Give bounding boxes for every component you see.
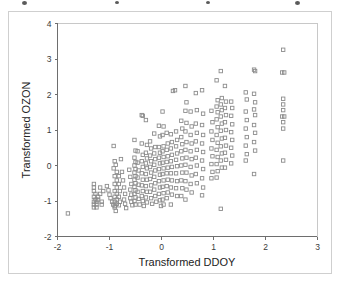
data-point xyxy=(170,153,173,156)
data-point xyxy=(231,138,234,141)
data-point xyxy=(180,194,183,197)
x-tick-label: -2 xyxy=(54,242,62,252)
data-point xyxy=(149,171,152,174)
data-point xyxy=(244,144,247,147)
data-point xyxy=(224,113,227,116)
data-point xyxy=(98,186,101,189)
data-point xyxy=(185,121,188,124)
data-point xyxy=(153,132,156,135)
data-point xyxy=(281,48,284,51)
data-point xyxy=(219,145,222,148)
data-point xyxy=(119,157,122,160)
data-point xyxy=(194,140,197,143)
data-point xyxy=(162,167,165,170)
data-point xyxy=(122,198,125,201)
data-point xyxy=(189,133,192,136)
data-point xyxy=(189,150,192,153)
data-point xyxy=(194,156,197,159)
data-point xyxy=(162,179,165,182)
data-point xyxy=(185,156,188,159)
data-point xyxy=(195,131,198,134)
data-point xyxy=(166,155,169,158)
data-point xyxy=(175,138,178,141)
data-point xyxy=(169,147,172,150)
x-axis-title: Transformed DDOY xyxy=(139,256,236,268)
y-tick-label: 0 xyxy=(47,161,52,171)
data-point xyxy=(244,91,247,94)
data-point xyxy=(150,202,153,205)
data-point xyxy=(124,206,127,209)
data-point xyxy=(216,111,219,114)
data-point xyxy=(133,171,136,174)
data-point xyxy=(108,193,111,196)
data-point xyxy=(133,138,136,141)
data-point xyxy=(219,159,222,162)
data-point xyxy=(215,133,218,136)
data-point xyxy=(169,160,172,163)
data-point xyxy=(195,148,198,151)
data-point xyxy=(245,135,248,138)
data-point xyxy=(244,110,247,113)
data-point xyxy=(210,162,213,165)
data-point xyxy=(157,192,160,195)
data-point xyxy=(174,130,177,133)
data-point xyxy=(175,152,178,155)
data-point xyxy=(154,182,157,185)
data-point xyxy=(185,171,188,174)
data-point xyxy=(253,149,256,152)
data-point xyxy=(190,142,193,145)
data-point xyxy=(153,175,156,178)
data-point xyxy=(166,178,169,181)
data-point xyxy=(219,207,222,210)
data-point xyxy=(231,154,234,157)
data-point xyxy=(211,120,214,123)
data-point xyxy=(140,142,143,145)
data-point xyxy=(114,209,117,212)
x-tick-label: 0 xyxy=(159,242,164,252)
data-point xyxy=(201,167,204,170)
data-point xyxy=(184,198,187,201)
data-point xyxy=(210,177,213,180)
data-point xyxy=(184,163,187,166)
data-point xyxy=(200,142,203,145)
data-point xyxy=(244,159,247,162)
data-point xyxy=(252,108,255,111)
y-tick-label: 1 xyxy=(47,125,52,135)
data-point xyxy=(245,98,248,101)
data-point xyxy=(154,194,157,197)
data-point xyxy=(153,188,156,191)
data-point xyxy=(120,170,123,173)
data-point xyxy=(181,171,184,174)
data-point xyxy=(181,143,184,146)
data-point xyxy=(219,103,222,106)
data-point xyxy=(195,164,198,167)
data-point xyxy=(149,196,152,199)
data-point xyxy=(220,96,223,99)
data-point xyxy=(140,160,143,163)
data-point xyxy=(190,125,193,128)
data-point xyxy=(215,118,218,121)
data-point xyxy=(129,196,132,199)
data-point xyxy=(166,191,169,194)
data-point xyxy=(216,155,219,158)
data-point xyxy=(115,170,118,173)
data-point xyxy=(252,172,255,175)
data-point xyxy=(170,193,173,196)
data-point xyxy=(112,144,115,147)
data-point xyxy=(229,162,232,165)
data-point xyxy=(195,108,198,111)
y-axis-title: Transformed OZON xyxy=(20,82,32,179)
data-point xyxy=(185,188,188,191)
data-point xyxy=(153,152,156,155)
data-point xyxy=(141,189,144,192)
data-point xyxy=(157,179,160,182)
data-point xyxy=(215,176,218,179)
data-point xyxy=(189,182,192,185)
data-point xyxy=(211,170,214,173)
data-point xyxy=(174,172,177,175)
data-point xyxy=(162,191,165,194)
data-point xyxy=(165,160,168,163)
data-point xyxy=(200,89,203,92)
data-point xyxy=(190,157,193,160)
data-point xyxy=(141,165,144,168)
